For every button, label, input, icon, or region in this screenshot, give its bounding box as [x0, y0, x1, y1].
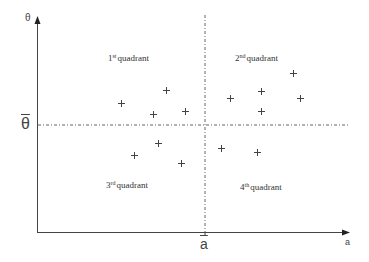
quadrant-diagram	[0, 0, 369, 262]
data-points	[118, 70, 304, 167]
plus-marker-icon	[258, 108, 265, 115]
plus-marker-icon	[118, 100, 125, 107]
plus-marker-icon	[182, 108, 189, 115]
quadrant-3-label: 3rdquadrant	[106, 180, 148, 190]
a-mean-label: a	[200, 236, 208, 252]
plus-marker-icon	[227, 95, 234, 102]
plus-marker-icon	[155, 140, 162, 147]
plus-marker-icon	[178, 160, 185, 167]
quadrant-4-label: 4thquadrant	[240, 182, 282, 192]
plus-marker-icon	[290, 70, 297, 77]
y-axis-arrow-icon	[35, 16, 41, 24]
plus-marker-icon	[297, 95, 304, 102]
plus-marker-icon	[131, 152, 138, 159]
plus-marker-icon	[254, 149, 261, 156]
plus-marker-icon	[150, 111, 157, 118]
x-axis-label: a	[345, 237, 350, 247]
plus-marker-icon	[163, 87, 170, 94]
x-axis-arrow-icon	[342, 230, 350, 236]
y-axis-label: θ	[25, 12, 31, 23]
theta-mean-label: θ	[21, 115, 30, 133]
plus-marker-icon	[258, 88, 265, 95]
quadrant-1-label: 1stquadrant	[108, 53, 149, 63]
quadrant-2-label: 2ndquadrant	[235, 53, 278, 63]
plus-marker-icon	[218, 145, 225, 152]
